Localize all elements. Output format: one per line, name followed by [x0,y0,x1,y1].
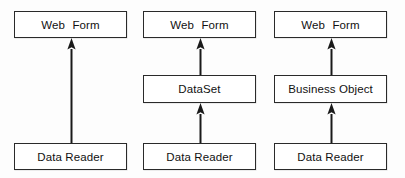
node-data-reader: Data Reader [274,143,387,170]
node-label: DataSet [178,83,220,95]
node-label: Business Object [288,83,373,95]
arrow-data-reader-to-dataset [143,103,258,143]
node-dataset: DataSet [143,75,256,103]
diagram-column-dataset: Web Form DataSet Data Reader [143,0,258,178]
node-label: Data Reader [37,151,103,163]
node-label: Data Reader [166,151,232,163]
node-data-reader: Data Reader [14,143,127,170]
node-business-object: Business Object [274,75,387,103]
architecture-diagram: Web Form Data Reader Web Form DataSet [0,0,405,178]
arrow-data-reader-to-business-object [274,103,389,143]
diagram-column-direct: Web Form Data Reader [14,0,129,178]
node-web-form: Web Form [274,11,387,38]
arrow-data-reader-to-web-form [14,38,129,143]
node-label: Web Form [301,19,359,31]
node-web-form: Web Form [143,11,256,38]
node-label: Web Form [170,19,228,31]
node-data-reader: Data Reader [143,143,256,170]
arrow-dataset-to-web-form [143,38,258,75]
node-web-form: Web Form [14,11,127,38]
node-label: Data Reader [297,151,363,163]
diagram-column-business-object: Web Form Business Object Data Reader [274,0,389,178]
arrow-business-object-to-web-form [274,38,389,75]
node-label: Web Form [41,19,99,31]
